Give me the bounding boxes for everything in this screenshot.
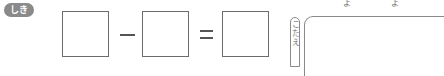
shiki-badge: しき (4, 3, 34, 17)
answer-label: こたえ (290, 17, 300, 67)
result-box[interactable] (222, 11, 269, 57)
furigana-fragment-1: よ (343, 0, 351, 8)
equals-sign-top (200, 30, 213, 32)
operand2-box[interactable] (142, 11, 189, 57)
equals-sign-bottom (200, 37, 213, 39)
answer-box[interactable] (304, 16, 444, 76)
furigana-fragment-2: よ (391, 0, 399, 8)
operand1-box[interactable] (62, 11, 109, 57)
minus-sign (120, 34, 135, 36)
